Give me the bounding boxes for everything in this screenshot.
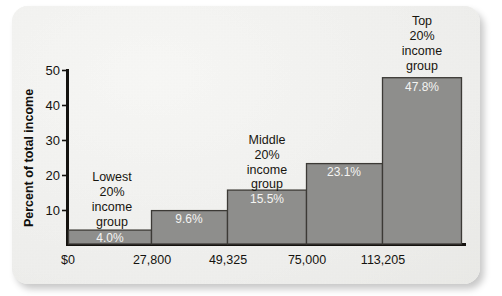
bar-chart: Percent of total income 50 40 30 20 10 4… (0, 0, 502, 296)
annotation-middle-20: Middle 20% income group (247, 133, 287, 191)
annotation-lowest-line-2: 20% (99, 185, 124, 199)
y-tick-label-10: 10 (46, 203, 60, 218)
bar-label-fourth-20: 23.1% (327, 165, 361, 179)
bar-label-top-20: 47.8% (405, 80, 439, 94)
annotation-lowest-line-1: Lowest (92, 170, 132, 184)
y-tick-label-40: 40 (46, 98, 60, 113)
annotation-top-line-2: 20% (409, 29, 434, 43)
bar-label-lowest-20: 4.0% (96, 231, 124, 245)
annotation-top-20: Top 20% income group (402, 14, 442, 73)
y-tick-label-50: 50 (46, 63, 60, 78)
annotation-lowest-line-4: group (96, 215, 128, 229)
annotation-middle-line-4: group (251, 177, 283, 191)
bar-label-middle-20: 15.5% (250, 192, 284, 206)
annotation-top-line-4: group (406, 59, 438, 73)
figure-root: Percent of total income 50 40 30 20 10 4… (0, 0, 502, 296)
x-tick-label-75000: 75,000 (288, 253, 326, 267)
bar-label-second-20: 9.6% (175, 212, 203, 226)
annotation-middle-line-1: Middle (249, 133, 286, 147)
annotation-middle-line-3: income (247, 163, 287, 177)
x-tick-label-0: $0 (61, 253, 75, 267)
y-axis-title: Percent of total income (22, 89, 36, 227)
y-tick-label-20: 20 (46, 168, 60, 183)
x-tick-label-49325: 49,325 (209, 253, 247, 267)
annotation-top-line-3: income (402, 44, 442, 58)
annotation-top-line-1: Top (412, 14, 432, 28)
bar-top-20 (383, 78, 462, 244)
y-tick-label-30: 30 (46, 133, 60, 148)
annotation-middle-line-2: 20% (254, 148, 279, 162)
x-tick-label-113205: 113,205 (361, 253, 405, 267)
x-tick-label-27800: 27,800 (133, 253, 171, 267)
annotation-lowest-20: Lowest 20% income group (92, 170, 132, 229)
annotation-lowest-line-3: income (92, 200, 132, 214)
